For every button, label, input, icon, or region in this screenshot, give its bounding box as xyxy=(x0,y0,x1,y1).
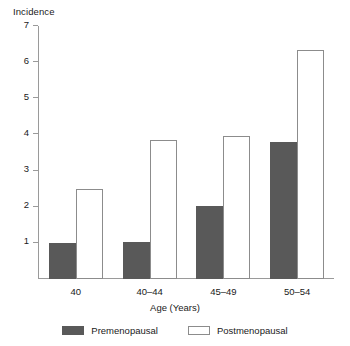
legend-item: Premenopausal xyxy=(62,325,158,336)
bar-group xyxy=(260,26,334,279)
legend-item: Postmenopausal xyxy=(188,325,288,336)
y-tick-label: 7 xyxy=(24,19,29,31)
y-tick: 1 xyxy=(33,242,38,243)
chart-legend: PremenopausalPostmenopausal xyxy=(0,325,350,336)
bar-group xyxy=(187,26,261,279)
legend-label: Premenopausal xyxy=(91,325,158,336)
y-tick-label: 2 xyxy=(24,199,29,211)
legend-swatch-postmenopausal xyxy=(188,326,210,335)
y-tick-label: 5 xyxy=(24,91,29,103)
bar-postmenopausal xyxy=(223,136,250,279)
y-tick: 3 xyxy=(33,170,38,171)
bar-group xyxy=(113,26,187,279)
bar-postmenopausal xyxy=(297,50,324,280)
y-tick: 4 xyxy=(33,133,38,134)
bar-premenopausal xyxy=(196,206,223,279)
y-tick: 7 xyxy=(33,25,38,26)
y-tick-label: 3 xyxy=(24,163,29,175)
legend-label: Postmenopausal xyxy=(217,325,288,336)
y-tick: 2 xyxy=(33,206,38,207)
y-tick: 6 xyxy=(33,61,38,62)
y-tick-label: 4 xyxy=(24,127,29,139)
bar-group xyxy=(39,26,113,279)
plot-area: 1234567 xyxy=(38,26,334,279)
y-tick-label: 6 xyxy=(24,55,29,67)
x-axis-title: Age (Years) xyxy=(0,302,350,313)
bar-premenopausal xyxy=(123,242,150,279)
bar-premenopausal xyxy=(49,243,76,279)
bar-postmenopausal xyxy=(76,189,103,279)
y-tick-label: 1 xyxy=(24,235,29,247)
x-tick-label: 40–44 xyxy=(136,286,162,297)
legend-swatch-premenopausal xyxy=(62,326,84,335)
x-tick-label: 40 xyxy=(71,286,82,297)
bar-premenopausal xyxy=(270,142,297,279)
x-axis-tick-labels: 4040–4445–4950–54 xyxy=(38,286,334,300)
y-axis-title: Incidence xyxy=(13,6,55,17)
bar-chart: Incidence 1234567 4040–4445–4950–54 Age … xyxy=(0,0,350,346)
bars-layer xyxy=(39,26,334,279)
x-tick-label: 50–54 xyxy=(284,286,310,297)
y-tick: 5 xyxy=(33,97,38,98)
x-tick-label: 45–49 xyxy=(210,286,236,297)
bar-postmenopausal xyxy=(150,140,177,279)
